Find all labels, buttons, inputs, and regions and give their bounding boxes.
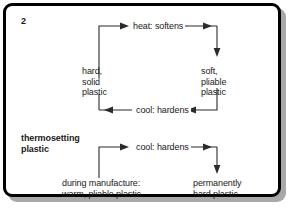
arrowhead-cool-hardens-bottom-right bbox=[203, 144, 212, 151]
arrowhead-cool-hardens-bottom-left bbox=[120, 144, 129, 151]
arrowhead-heat-softens-right bbox=[203, 23, 212, 30]
heading-thermosetting-text: thermosetting plastic bbox=[21, 133, 80, 154]
heading-thermosoftening: 2 bbox=[21, 16, 26, 27]
node-hard-solid-plastic-text: hard, solid plastic bbox=[82, 66, 107, 97]
heading-thermosetting: thermosetting plastic bbox=[21, 133, 80, 154]
diagram-panel: 2 hard, solid plastic soft, pliable plas… bbox=[3, 3, 281, 197]
edge-label-cool-hardens-top: cool: hardens bbox=[134, 105, 191, 116]
arrowhead-down-to-soft bbox=[214, 48, 221, 57]
edge-label-heat-softens: heat: softens bbox=[131, 21, 185, 32]
node-hard-solid-plastic: hard, solid plastic bbox=[82, 66, 107, 98]
node-soft-pliable-plastic: soft, pliable plastic bbox=[201, 66, 226, 98]
node-soft-pliable-plastic-text: soft, pliable plastic bbox=[201, 66, 226, 97]
node-permanently-hard-plastic: permanently hard plastic bbox=[193, 178, 241, 199]
arrowhead-down-to-permanently-hard bbox=[214, 165, 221, 174]
wire-manufacture-to-rail bbox=[99, 147, 120, 178]
connector-lines bbox=[6, 6, 284, 200]
diagram-canvas: 2 hard, solid plastic soft, pliable plas… bbox=[6, 6, 284, 200]
node-permanently-hard-plastic-text: permanently hard plastic bbox=[193, 178, 241, 199]
edge-label-cool-hardens-bottom: cool: hardens bbox=[134, 142, 191, 153]
node-during-manufacture: during manufacture: warm, pliable plasti… bbox=[62, 178, 141, 199]
arrowhead-cool-hardens-left bbox=[104, 107, 113, 114]
arrowhead-heat-softens-left bbox=[120, 23, 129, 30]
node-during-manufacture-text: during manufacture: warm, pliable plasti… bbox=[62, 178, 141, 199]
